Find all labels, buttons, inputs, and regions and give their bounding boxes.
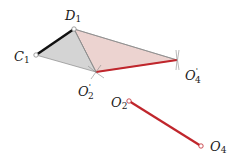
pivot-o2 [127,99,131,103]
label-o4-prime: O'4 [185,66,201,85]
label-d1: D1 [64,8,81,24]
linkage-diagram: C1 D1 O'2 O'4 O2 O4 [0,0,234,165]
pivot-c1 [34,53,38,57]
label-o4: O4 [210,139,227,155]
ground-link [129,101,201,146]
pivot-d1 [72,27,76,31]
label-o2-prime: O'2 [78,82,94,101]
pivot-o4 [199,144,203,148]
label-c1: C1 [14,49,30,65]
label-o2: O2 [111,95,127,111]
